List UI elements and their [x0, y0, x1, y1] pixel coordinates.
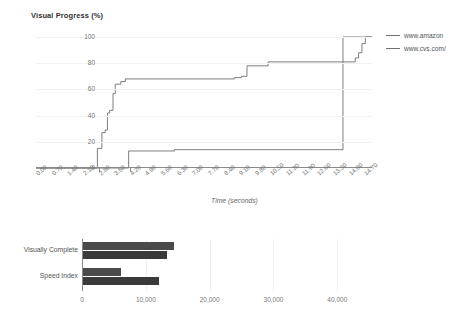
bar-category-label: Speed Index	[4, 273, 78, 280]
legend-line-icon	[386, 35, 400, 36]
line-series-www-amazon	[36, 37, 372, 168]
legend-item-label: www.cvs.com/	[404, 45, 446, 52]
gridline	[273, 239, 274, 291]
legend-item[interactable]: www.cvs.com/	[386, 42, 446, 55]
bar-plot-area: Visually CompleteSpeed Index 010,00020,0…	[82, 239, 382, 291]
gridline	[210, 239, 211, 291]
bar-category-label: Visually Complete	[4, 247, 78, 254]
legend-item-label: www.amazon	[404, 32, 443, 39]
bar-x-axis-tick-label: 0	[80, 297, 84, 304]
line-chart-title: Visual Progress (%)	[31, 11, 103, 20]
legend-item[interactable]: www.amazon	[386, 29, 446, 42]
bar-y-axis-line	[82, 239, 83, 291]
bar[interactable]	[83, 242, 174, 250]
bar[interactable]	[83, 268, 121, 276]
line-series-group	[36, 37, 372, 168]
legend-line-icon	[386, 48, 400, 49]
line-chart-legend: www.amazonwww.cvs.com/	[386, 29, 446, 55]
timings-chart: Timings (ms) Visually CompleteSpeed Inde…	[0, 208, 469, 310]
line-series-www-cvs-com-	[36, 37, 372, 168]
y-axis-tick-label: 40	[65, 113, 95, 120]
y-axis-tick-label: 100	[65, 34, 95, 41]
bar[interactable]	[83, 251, 167, 259]
y-axis-tick-label: 80	[65, 60, 95, 67]
y-axis-tick-label: 20	[65, 139, 95, 146]
bar-x-axis-tick-label: 20,000	[200, 297, 220, 304]
gridline	[337, 239, 338, 291]
bar-x-axis-tick-label: 30,000	[264, 297, 284, 304]
bar[interactable]	[83, 277, 159, 285]
bar-x-axis-tick-label: 10,000	[136, 297, 156, 304]
visual-progress-chart: Visual Progress (%) 020406080100 0.000.7…	[0, 0, 469, 208]
y-axis-tick-label: 60	[65, 86, 95, 93]
line-plot-area	[36, 37, 372, 168]
x-axis-label: Time (seconds)	[0, 197, 469, 204]
bar-x-axis-tick-label: 40,000	[327, 297, 347, 304]
